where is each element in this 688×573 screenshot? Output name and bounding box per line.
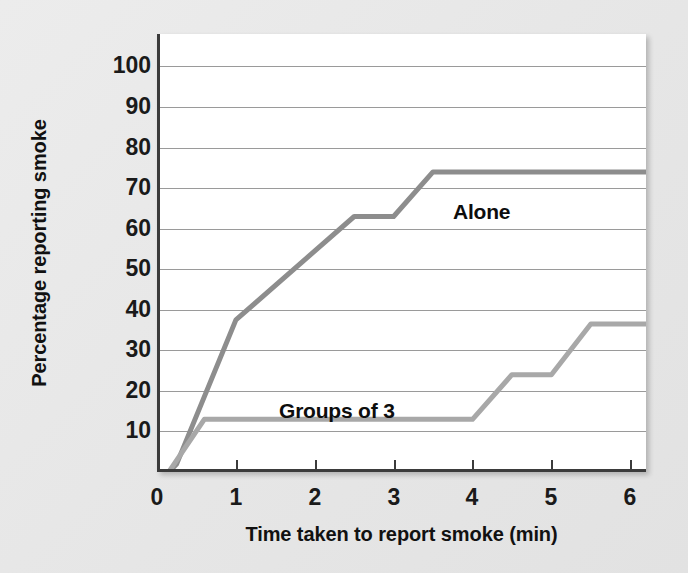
series-label-alone: Alone	[453, 200, 510, 224]
x-tick-label: 6	[610, 486, 650, 509]
y-tick-label: 40	[95, 298, 151, 321]
y-tick-label: 20	[95, 379, 151, 402]
series-label-groups: Groups of 3	[279, 399, 395, 423]
y-tick-label: 90	[95, 95, 151, 118]
x-tick-label: 5	[531, 486, 571, 509]
chart-figure: Percentage reporting smoke 1020304050607…	[0, 0, 688, 573]
y-tick-label: 30	[95, 338, 151, 361]
y-tick-label: 100	[95, 54, 151, 77]
x-axis-tick-labels: 0123456	[157, 486, 646, 516]
x-tick-label: 2	[295, 486, 335, 509]
x-tick-label: 1	[216, 486, 256, 509]
y-tick-label: 10	[95, 419, 151, 442]
y-tick-label: 80	[95, 136, 151, 159]
plot-area: Alone Groups of 3	[157, 34, 646, 472]
x-tick-label: 3	[374, 486, 414, 509]
y-tick-label: 60	[95, 217, 151, 240]
y-axis-tick-labels: 102030405060708090100	[89, 34, 151, 472]
series-annotations: Alone Groups of 3	[157, 34, 646, 472]
x-tick-label: 4	[452, 486, 492, 509]
y-tick-label: 50	[95, 257, 151, 280]
y-axis-title: Percentage reporting smoke	[28, 34, 62, 472]
x-axis-title: Time taken to report smoke (min)	[157, 523, 646, 546]
x-tick-label: 0	[137, 486, 177, 509]
y-tick-label: 70	[95, 176, 151, 199]
